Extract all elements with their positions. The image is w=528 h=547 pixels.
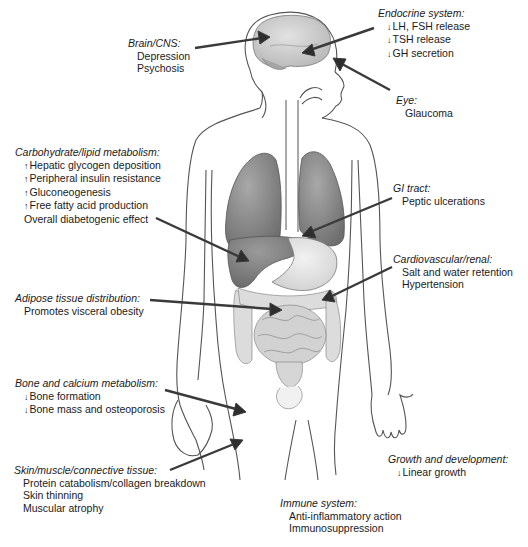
- label-item: ↓Bone mass and osteoporosis: [15, 403, 165, 417]
- intestines: [234, 288, 341, 409]
- label-title: Brain/CNS:: [128, 37, 190, 50]
- label-item: ↓GH secretion: [378, 47, 470, 61]
- label-title: Endocrine system:: [378, 7, 470, 20]
- label-item: ↓Bone formation: [15, 390, 165, 404]
- label-item: Skin thinning: [14, 489, 206, 502]
- down-arrow-icon: ↓: [397, 468, 402, 478]
- down-arrow-icon: ↓: [24, 405, 29, 415]
- label-eye: Eye: Glaucoma: [396, 94, 453, 119]
- label-endocrine-system: Endocrine system: ↓LH, FSH release ↓TSH …: [378, 7, 470, 60]
- label-title: Growth and development:: [388, 453, 508, 466]
- label-title: Carbohydrate/lipid metabolism:: [15, 146, 161, 159]
- label-item: Overall diabetogenic effect: [15, 213, 161, 226]
- down-arrow-icon: ↓: [24, 392, 29, 402]
- label-growth-development: Growth and development: ↓Linear growth: [388, 453, 508, 479]
- down-arrow-icon: ↓: [387, 35, 392, 45]
- label-title: Immune system:: [280, 497, 402, 510]
- down-arrow-icon: ↓: [387, 22, 392, 32]
- label-item: ↓LH, FSH release: [378, 20, 470, 34]
- down-arrow-icon: ↓: [387, 49, 392, 59]
- label-item: Protein catabolism/collagen breakdown: [14, 477, 206, 490]
- label-skin-muscle-connective-tissue: Skin/muscle/connective tissue: Protein c…: [14, 464, 206, 514]
- label-item: Promotes visceral obesity: [15, 305, 144, 318]
- label-title: Bone and calcium metabolism:: [15, 377, 165, 390]
- label-item: Psychosis: [128, 62, 190, 75]
- label-item: Anti-inflammatory action: [280, 510, 402, 523]
- label-item: ↓TSH release: [378, 33, 470, 47]
- label-item: ↑Hepatic glycogen deposition: [15, 159, 161, 173]
- label-item: Depression: [128, 50, 190, 63]
- label-item: ↓Linear growth: [388, 466, 508, 480]
- label-title: Cardiovascular/renal:: [393, 253, 513, 266]
- label-bone-calcium-metabolism: Bone and calcium metabolism: ↓Bone forma…: [15, 377, 165, 417]
- label-item: ↑Peripheral insulin resistance: [15, 172, 161, 186]
- label-item: Glaucoma: [396, 107, 453, 120]
- label-title: Adipose tissue distribution:: [15, 292, 144, 305]
- label-item: ↑Free fatty acid production: [15, 199, 161, 213]
- label-item: Muscular atrophy: [14, 502, 206, 515]
- label-item: Salt and water retention: [393, 266, 513, 279]
- up-arrow-icon: ↑: [24, 188, 29, 198]
- left-lung: [226, 153, 282, 248]
- label-item: Peptic ulcerations: [393, 195, 485, 208]
- label-adipose-tissue-distribution: Adipose tissue distribution: Promotes vi…: [15, 292, 144, 317]
- up-arrow-icon: ↑: [24, 174, 29, 184]
- label-item: ↑Gluconeogenesis: [15, 186, 161, 200]
- up-arrow-icon: ↑: [24, 201, 29, 211]
- label-title: Skin/muscle/connective tissue:: [14, 464, 206, 477]
- label-cardiovascular-renal: Cardiovascular/renal: Salt and water ret…: [393, 253, 513, 291]
- label-item: Hypertension: [393, 278, 513, 291]
- label-title: GI tract:: [393, 182, 485, 195]
- label-carbohydrate-lipid-metabolism: Carbohydrate/lipid metabolism: ↑Hepatic …: [15, 146, 161, 226]
- up-arrow-icon: ↑: [24, 161, 29, 171]
- label-immune-system: Immune system: Anti-inflammatory action …: [280, 497, 402, 535]
- label-brain-cns: Brain/CNS: Depression Psychosis: [128, 37, 190, 75]
- label-title: Eye:: [396, 94, 453, 107]
- label-gi-tract: GI tract: Peptic ulcerations: [393, 182, 485, 207]
- label-item: Immunosuppression: [280, 522, 402, 535]
